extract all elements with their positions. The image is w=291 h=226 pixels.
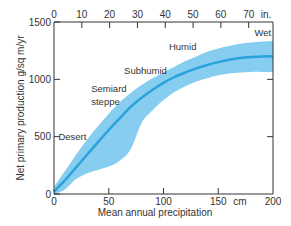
x-top-tick-label: 30	[132, 9, 144, 20]
region-label: Subhumid	[124, 65, 167, 76]
x-axis-title: Mean annual precipitation	[98, 207, 213, 218]
region-label: Humid	[169, 41, 196, 52]
x-tick-label: 0	[51, 196, 57, 207]
region-label: steppe	[91, 96, 120, 107]
y-tick-label: 500	[34, 131, 51, 142]
x-tick-label: 50	[103, 196, 115, 207]
x-top-tick-label: 70	[243, 9, 255, 20]
x-unit-bottom-label: cm	[233, 196, 246, 207]
x-tick-label: 200	[265, 196, 282, 207]
x-top-tick-label: 20	[104, 9, 116, 20]
x-tick-label: 100	[155, 196, 172, 207]
y-axis-title: Net primary production g/sq m/yr	[15, 35, 26, 181]
region-label: Wet	[254, 27, 271, 38]
y-tick-label: 1000	[29, 74, 52, 85]
x-tick-label: 150	[210, 196, 227, 207]
region-label: Desert	[58, 131, 86, 142]
y-tick-label: 1500	[29, 17, 52, 28]
x-top-tick-label: 0	[51, 9, 57, 20]
x-unit-top-label: in.	[261, 9, 272, 20]
x-top-tick-label: 50	[188, 9, 200, 20]
x-top-tick-label: 60	[215, 9, 227, 20]
x-ticks-top: 010203040506070	[51, 9, 254, 28]
region-label: Semiard	[91, 83, 126, 94]
x-top-tick-label: 10	[76, 9, 88, 20]
npp-precipitation-chart: 050010001500 050100150200 01020304050607…	[0, 0, 291, 226]
x-ticks-bottom: 050100150200	[51, 188, 282, 207]
x-top-tick-label: 40	[160, 9, 172, 20]
